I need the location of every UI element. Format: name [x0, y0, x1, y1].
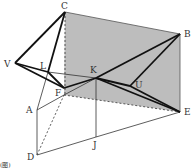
label-C: C: [61, 1, 68, 11]
geometry-diagram: C B V L F K U E A D J (图): [0, 0, 195, 168]
label-F: F: [55, 88, 61, 98]
label-L: L: [40, 61, 46, 71]
label-D: D: [27, 152, 34, 162]
label-B: B: [184, 29, 191, 39]
corner-mark: (图): [0, 161, 11, 168]
label-J: J: [92, 140, 97, 150]
edge-DF-dashed: [37, 95, 64, 155]
label-E: E: [184, 107, 191, 117]
edge-JE: [96, 112, 180, 137]
edge-DJ: [37, 137, 96, 155]
label-A: A: [25, 105, 33, 115]
label-K: K: [90, 65, 97, 75]
label-V: V: [3, 59, 11, 69]
edge-LF: [48, 72, 64, 88]
shaded-plane: [64, 12, 180, 112]
label-U: U: [135, 80, 143, 90]
